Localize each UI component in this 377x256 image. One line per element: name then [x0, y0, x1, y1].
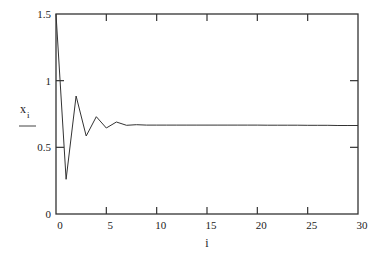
- series-line: [56, 14, 358, 179]
- svg-text:i: i: [27, 110, 30, 120]
- data-series: [56, 14, 358, 179]
- y-tick-label: 0.5: [37, 141, 51, 153]
- y-axis-label: x i: [19, 102, 36, 126]
- y-tick-label: 0: [46, 208, 52, 220]
- x-tick-label: 10: [155, 219, 167, 231]
- x-tick-label: 5: [108, 219, 114, 231]
- x-tick-label: 25: [306, 219, 318, 231]
- x-tick-label: 0: [57, 219, 63, 231]
- y-tick-label: 1.5: [37, 8, 51, 20]
- plot-frame: [56, 14, 358, 214]
- x-tick-label: 30: [357, 219, 369, 231]
- x-tick-label: 20: [256, 219, 268, 231]
- axis-ticks: [56, 14, 358, 214]
- tick-labels: 05101520253000.511.5: [37, 8, 368, 231]
- x-tick-label: 15: [206, 219, 218, 231]
- line-chart: 05101520253000.511.5 i x i: [0, 0, 377, 256]
- x-axis-label: i: [205, 236, 209, 250]
- y-tick-label: 1: [46, 75, 52, 87]
- svg-text:x: x: [20, 102, 26, 116]
